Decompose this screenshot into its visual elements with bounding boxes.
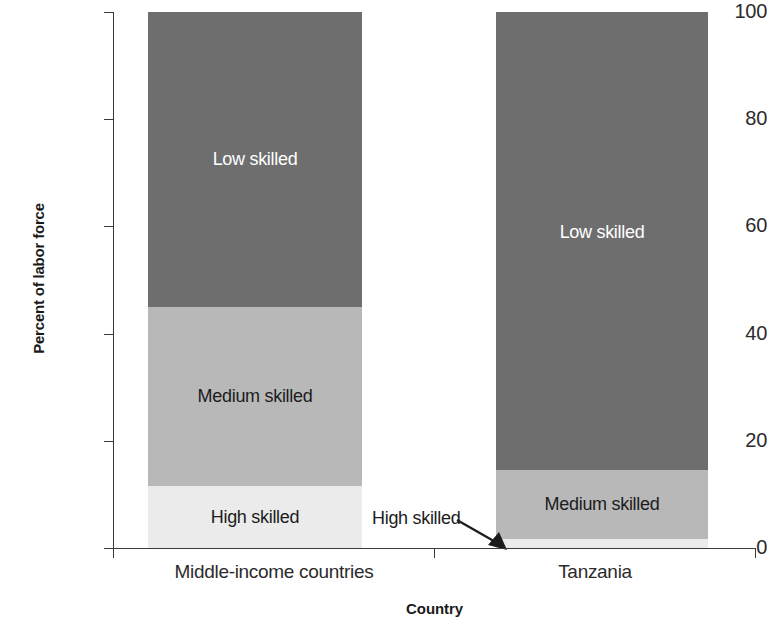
- bar-segment-high-skilled: [496, 539, 708, 548]
- y-tick-label-80: 80: [711, 107, 767, 130]
- bar-segment-medium-skilled: Medium skilled: [496, 470, 708, 539]
- y-tick-mark-0: [104, 548, 113, 549]
- y-tick-label-100: 100: [711, 0, 767, 23]
- y-axis-title: Percent of labor force: [30, 149, 47, 409]
- bar-segment-low-skilled: Low skilled: [496, 12, 708, 470]
- y-tick-label-40: 40: [711, 322, 767, 345]
- bar-segment-label-low-skilled: Low skilled: [213, 149, 298, 170]
- y-tick-mark-20: [104, 441, 113, 442]
- bar-segment-label-medium-skilled: Medium skilled: [545, 494, 660, 515]
- y-tick-mark-80: [104, 119, 113, 120]
- bar-segment-low-skilled: Low skilled: [148, 12, 362, 307]
- bar-segment-label-high-skilled: High skilled: [211, 507, 299, 528]
- y-tick-mark-100: [104, 12, 113, 13]
- x-tick-mark-left: [113, 549, 114, 558]
- y-tick-mark-40: [104, 334, 113, 335]
- y-axis-line: [113, 12, 114, 549]
- bar-segment-medium-skilled: Medium skilled: [148, 307, 362, 487]
- y-tick-mark-60: [104, 226, 113, 227]
- x-tick-mark-middle: [434, 549, 435, 558]
- y-tick-label-60: 60: [711, 214, 767, 237]
- bar-segment-label-low-skilled: Low skilled: [560, 222, 645, 243]
- x-axis-title: Country: [113, 600, 756, 617]
- x-tick-label-tanzania: Tanzania: [454, 561, 736, 583]
- bar-middle-income-countries: Low skilled Medium skilled High skilled: [148, 12, 362, 548]
- bar-segment-high-skilled: High skilled: [148, 486, 362, 548]
- x-tick-mark-right: [755, 549, 756, 558]
- annotation-label-high-skilled: High skilled: [372, 508, 460, 529]
- bar-tanzania: Low skilled Medium skilled: [496, 12, 708, 548]
- chart-container: Percent of labor force 100 80 60 40 20 0…: [0, 0, 767, 634]
- y-tick-label-20: 20: [711, 429, 767, 452]
- bar-segment-label-medium-skilled: Medium skilled: [198, 386, 313, 407]
- x-tick-label-middle-income-countries: Middle-income countries: [133, 561, 415, 583]
